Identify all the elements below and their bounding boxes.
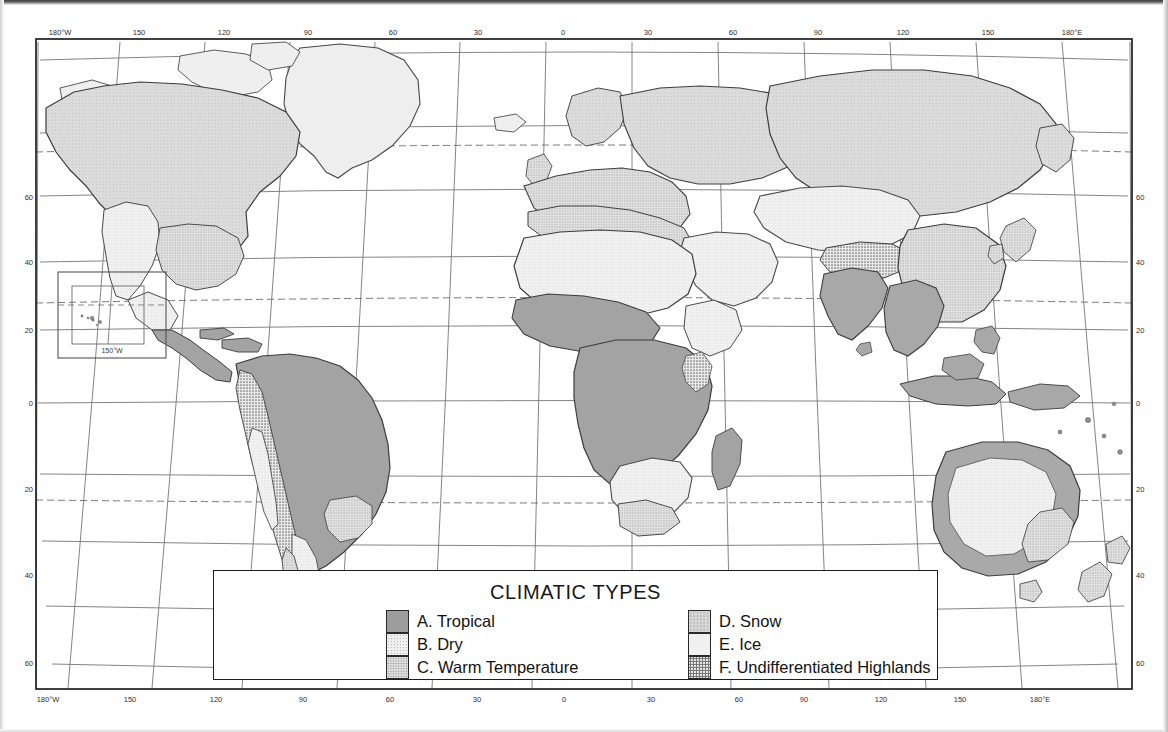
svg-text:0: 0 [562, 695, 566, 704]
svg-text:0: 0 [29, 399, 33, 408]
legend-swatch-snow [688, 610, 711, 633]
svg-text:20: 20 [25, 326, 33, 335]
legend-swatch-dry [386, 633, 409, 656]
svg-text:30: 30 [473, 695, 481, 704]
legend-swatch-warm-temperature [386, 656, 409, 679]
svg-text:60: 60 [389, 28, 397, 37]
svg-text:60: 60 [1136, 193, 1144, 202]
legend-column-right: D. Snow E. Ice F. Undifferentiated Highl… [688, 610, 931, 679]
svg-text:40: 40 [1136, 258, 1144, 267]
svg-text:60: 60 [386, 695, 394, 704]
legend-swatch-tropical [386, 610, 409, 633]
map-legend: CLIMATIC TYPES A. Tropical B. Dry C. War… [213, 570, 938, 680]
svg-text:150: 150 [133, 28, 146, 37]
legend-swatch-undifferentiated-highlands [688, 656, 711, 679]
svg-text:60: 60 [1136, 659, 1144, 668]
svg-text:120: 120 [210, 695, 223, 704]
svg-text:120: 120 [875, 695, 888, 704]
legend-label-tropical: A. Tropical [417, 612, 495, 631]
svg-text:150: 150 [982, 28, 995, 37]
svg-text:20: 20 [1136, 326, 1144, 335]
svg-text:180°E: 180°E [1030, 695, 1051, 704]
map-page: 150°W 180°W 150 120 90 60 30 0 30 60 90 … [0, 0, 1168, 732]
legend-label-warm-temperature: C. Warm Temperature [417, 658, 578, 677]
svg-text:90: 90 [299, 695, 307, 704]
svg-text:0: 0 [561, 28, 565, 37]
inset-label: 150°W [101, 347, 122, 354]
legend-item-snow[interactable]: D. Snow [688, 610, 931, 633]
svg-text:180°W: 180°W [37, 695, 61, 704]
legend-item-undifferentiated-highlands[interactable]: F. Undifferentiated Highlands [688, 656, 931, 679]
svg-text:20: 20 [25, 485, 33, 494]
svg-text:120: 120 [218, 28, 231, 37]
legend-item-warm-temperature[interactable]: C. Warm Temperature [386, 656, 636, 679]
legend-swatch-ice [688, 633, 711, 656]
svg-text:0: 0 [1136, 399, 1140, 408]
longitude-labels-bottom: 180°W 150 120 90 60 30 0 30 60 90 120 15… [37, 695, 1051, 704]
svg-text:60: 60 [25, 659, 33, 668]
legend-item-tropical[interactable]: A. Tropical [386, 610, 636, 633]
legend-label-ice: E. Ice [719, 635, 761, 654]
latitude-labels-left: 60 40 20 0 20 40 60 [25, 193, 33, 668]
svg-text:30: 30 [474, 28, 482, 37]
svg-text:150: 150 [124, 695, 137, 704]
svg-text:90: 90 [800, 695, 808, 704]
svg-text:40: 40 [25, 258, 33, 267]
legend-label-snow: D. Snow [719, 612, 781, 631]
legend-item-dry[interactable]: B. Dry [386, 633, 636, 656]
svg-text:90: 90 [304, 28, 312, 37]
svg-text:90: 90 [814, 28, 822, 37]
svg-text:60: 60 [729, 28, 737, 37]
svg-text:40: 40 [1136, 571, 1144, 580]
svg-text:60: 60 [735, 695, 743, 704]
svg-text:180°E: 180°E [1062, 28, 1083, 37]
legend-item-ice[interactable]: E. Ice [688, 633, 931, 656]
svg-text:40: 40 [25, 571, 33, 580]
svg-text:180°W: 180°W [49, 28, 73, 37]
svg-text:30: 30 [647, 695, 655, 704]
legend-label-undifferentiated-highlands: F. Undifferentiated Highlands [719, 658, 931, 677]
legend-label-dry: B. Dry [417, 635, 463, 654]
svg-text:150: 150 [954, 695, 967, 704]
svg-text:20: 20 [1136, 485, 1144, 494]
svg-text:60: 60 [25, 193, 33, 202]
legend-title: CLIMATIC TYPES [214, 581, 937, 604]
longitude-labels-top: 180°W 150 120 90 60 30 0 30 60 90 120 15… [49, 28, 1083, 37]
svg-text:30: 30 [644, 28, 652, 37]
latitude-labels-right: 60 40 20 0 20 40 60 [1136, 193, 1144, 668]
legend-column-left: A. Tropical B. Dry C. Warm Temperature [386, 610, 636, 679]
svg-text:120: 120 [897, 28, 910, 37]
